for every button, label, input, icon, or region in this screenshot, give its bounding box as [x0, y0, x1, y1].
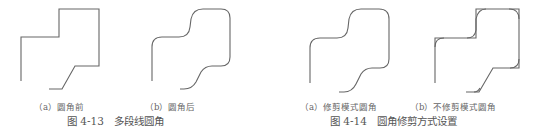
polyline-after-fillet [152, 9, 230, 89]
subcaption-4-14-a: （a）修剪模式圆角 [300, 100, 377, 112]
caption-4-13: 图 4-13 多段线圆角 [67, 113, 164, 128]
polyline-trim-mode [310, 9, 389, 92]
subcaption-4-13-b: （b）圆角后 [145, 100, 195, 112]
polyline-no-trim-mode [435, 9, 519, 92]
subcaption-4-14-b: （b）不修剪模式圆角 [410, 100, 496, 112]
polyline-before-fillet [21, 9, 99, 89]
caption-4-14: 图 4-14 圆角修剪方式设置 [330, 113, 457, 128]
subcaption-4-13-a: （a）圆角前 [34, 100, 84, 112]
